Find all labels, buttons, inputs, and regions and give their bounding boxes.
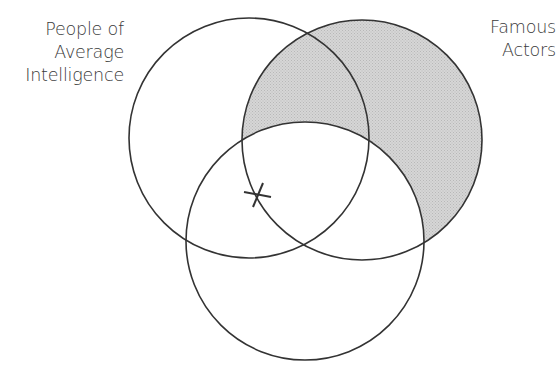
label-line: People of <box>6 18 124 41</box>
label-line: Actors <box>458 39 556 62</box>
label-line: Intelligence <box>6 64 124 87</box>
label-line: Average <box>6 41 124 64</box>
shaded-region <box>242 20 482 260</box>
label-people-of-average-intelligence: People of Average Intelligence <box>6 18 124 87</box>
venn-diagram: People of Average Intelligence Famous Ac… <box>0 0 560 378</box>
label-famous-actors: Famous Actors <box>458 16 556 62</box>
label-line: Famous <box>458 16 556 39</box>
